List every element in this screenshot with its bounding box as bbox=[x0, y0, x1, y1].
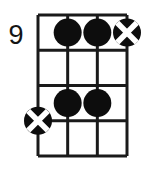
finger-markers bbox=[24, 19, 141, 135]
dot-string3-fret3 bbox=[83, 89, 111, 117]
dot-string2-fret1 bbox=[54, 19, 82, 47]
dot-string2-fret3 bbox=[54, 89, 82, 117]
fretboard-grid bbox=[0, 0, 144, 173]
marker-dot bbox=[83, 89, 111, 117]
x-circle-string4-fret1 bbox=[113, 19, 141, 47]
marker-dot bbox=[54, 89, 82, 117]
chord-diagram: 9 bbox=[0, 0, 144, 173]
marker-dot bbox=[83, 19, 111, 47]
x-circle-string1-fret4 bbox=[24, 107, 52, 135]
dot-string3-fret1 bbox=[83, 19, 111, 47]
marker-dot bbox=[54, 19, 82, 47]
